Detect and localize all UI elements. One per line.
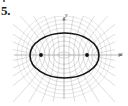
focus-point: [85, 53, 89, 57]
confocal-conics-plot: [0, 0, 128, 106]
page-crop-mark: [3, 0, 5, 2]
figure-container: 5. y x: [0, 0, 128, 106]
x-axis-label: x: [120, 51, 123, 57]
figure-number-label: 5.: [1, 4, 10, 17]
focus-point: [39, 53, 43, 57]
y-axis-label: y: [65, 12, 68, 18]
